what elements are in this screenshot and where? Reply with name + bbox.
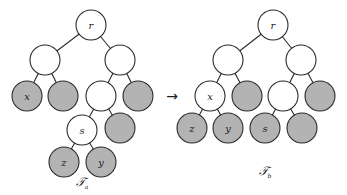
- tree-node: [287, 113, 317, 143]
- tree-node: [86, 81, 116, 111]
- tree-a-nodes: rxszy: [12, 10, 153, 177]
- node-label: y: [224, 123, 231, 134]
- tree-transformation-diagram: rxszy 𝒯a → rxzys 𝒯b: [0, 0, 347, 195]
- node-label: x: [207, 91, 213, 102]
- node-label: z: [188, 123, 195, 134]
- tree-node: [305, 81, 335, 111]
- tree-node: [48, 81, 78, 111]
- transform-arrow-icon: →: [166, 88, 178, 104]
- tree-node: [232, 81, 262, 111]
- tree-node: [105, 45, 135, 75]
- tree-a-label: 𝒯a: [76, 175, 89, 190]
- tree-node: [286, 45, 316, 75]
- node-label: s: [262, 123, 267, 134]
- tree-b-label: 𝒯b: [259, 164, 272, 179]
- node-label: z: [60, 157, 67, 168]
- tree-b: rxzys 𝒯b: [177, 10, 335, 179]
- tree-node: [105, 113, 135, 143]
- node-label: x: [24, 91, 30, 102]
- node-label: y: [97, 157, 104, 168]
- tree-node: [213, 45, 243, 75]
- tree-b-nodes: rxzys: [177, 10, 335, 143]
- tree-node: [268, 81, 298, 111]
- tree-a: rxszy 𝒯a: [12, 10, 153, 190]
- node-label: s: [79, 125, 84, 136]
- tree-node: [30, 45, 60, 75]
- tree-node: [123, 81, 153, 111]
